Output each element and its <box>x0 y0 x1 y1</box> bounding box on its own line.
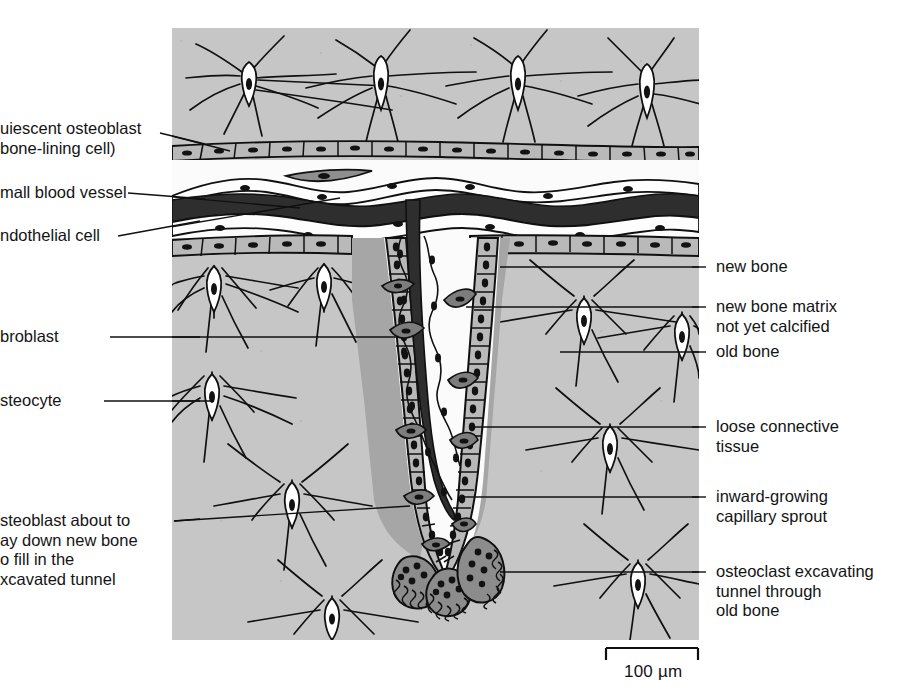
nucleus <box>211 283 217 295</box>
label-old-bone: old bone <box>716 342 779 362</box>
label-line: ay down new bone <box>0 531 138 549</box>
label-line: uiescent osteoblast <box>0 119 141 137</box>
nucleus <box>246 78 252 90</box>
nucleus <box>394 284 402 289</box>
label-line: inward-growing <box>716 487 828 505</box>
nucleus <box>289 499 295 511</box>
label-new-bone: new bone <box>716 257 788 277</box>
label-osteoclast-excavating-tunnel: osteoclast excavatingtunnel throughold b… <box>716 562 874 621</box>
label-quiescent-osteoblast: uiescent osteoblastbone-lining cell) <box>0 119 141 158</box>
label-line: broblast <box>0 327 59 345</box>
nucleus <box>679 331 685 343</box>
scale-bar-caption: 100 µm <box>624 662 682 682</box>
label-inward-growing-capillary-sprout: inward-growingcapillary sprout <box>716 487 828 526</box>
label-line: tunnel through <box>716 582 822 600</box>
label-line: mall blood vessel <box>0 183 127 201</box>
label-osteoblast-about-to-lay-down-new-bone: steoblast about toay down new boneo fill… <box>0 511 138 589</box>
label-endothelial-cell: ndothelial cell <box>0 226 100 246</box>
nucleus <box>329 614 335 625</box>
nucleus <box>432 543 440 548</box>
label-line: not yet calcified <box>716 317 830 335</box>
label-line: ndothelial cell <box>0 226 100 244</box>
label-fibroblast: broblast <box>0 327 59 347</box>
nucleus <box>321 281 327 293</box>
label-loose-connective-tissue: loose connectivetissue <box>716 417 839 456</box>
nucleus <box>635 579 641 591</box>
nucleus <box>459 377 468 382</box>
nucleus <box>378 78 384 91</box>
label-line: new bone matrix <box>716 297 837 315</box>
label-line: old bone <box>716 342 779 360</box>
label-line: new bone <box>716 257 788 275</box>
label-line: xcavated tunnel <box>0 570 116 588</box>
label-line: old bone <box>716 601 779 619</box>
nucleus <box>407 428 416 433</box>
label-new-bone-matrix-not-yet-calcified: new bone matrixnot yet calcified <box>716 297 837 336</box>
nucleus <box>318 173 330 179</box>
label-line: osteoclast excavating <box>716 562 874 580</box>
scale-bar-bracket <box>606 648 698 660</box>
label-line: capillary sprout <box>716 507 827 525</box>
nucleus <box>402 328 411 333</box>
label-small-blood-vessel: mall blood vessel <box>0 183 127 203</box>
bone-panel <box>104 28 706 640</box>
nucleus <box>644 86 650 99</box>
nucleus <box>515 78 521 91</box>
nucleus <box>607 443 613 455</box>
label-line: loose connective <box>716 417 839 435</box>
bone-remodeling-diagram: uiescent osteoblastbone-lining cell) mal… <box>0 0 908 694</box>
nucleus <box>460 438 469 443</box>
nucleus <box>415 494 424 499</box>
nucleus <box>456 296 465 301</box>
nucleus <box>460 522 468 527</box>
label-line: steocyte <box>0 391 61 409</box>
label-line: o fill in the <box>0 550 74 568</box>
label-line: steoblast about to <box>0 511 130 529</box>
label-osteocyte: steocyte <box>0 391 61 411</box>
nucleus <box>581 315 587 327</box>
label-line: bone-lining cell) <box>0 139 116 157</box>
label-line: tissue <box>716 437 759 455</box>
